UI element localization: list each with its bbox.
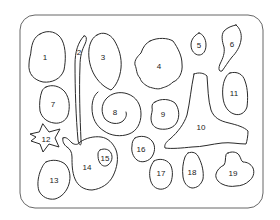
label-5: 5 [197,41,202,50]
label-4: 4 [157,62,162,71]
label-9: 9 [161,110,166,119]
label-19: 19 [229,169,238,178]
shape-labels: 1 2 3 4 5 6 7 8 9 10 11 12 13 14 15 16 1… [42,40,239,185]
label-16: 16 [137,145,146,154]
shape-10 [165,73,248,148]
label-6: 6 [230,40,235,49]
label-14: 14 [83,163,92,172]
label-11: 11 [230,89,239,98]
label-15: 15 [101,154,110,163]
label-2: 2 [77,48,82,57]
label-8: 8 [113,108,118,117]
label-18: 18 [188,168,197,177]
label-3: 3 [101,53,106,62]
shape-3 [89,33,121,90]
label-12: 12 [42,135,51,144]
label-7: 7 [51,100,56,109]
shapes-diagram: 1 2 3 4 5 6 7 8 9 10 11 12 13 14 15 16 1… [0,0,280,220]
label-13: 13 [50,176,59,185]
label-1: 1 [43,53,48,62]
label-17: 17 [157,169,166,178]
label-10: 10 [197,123,206,132]
